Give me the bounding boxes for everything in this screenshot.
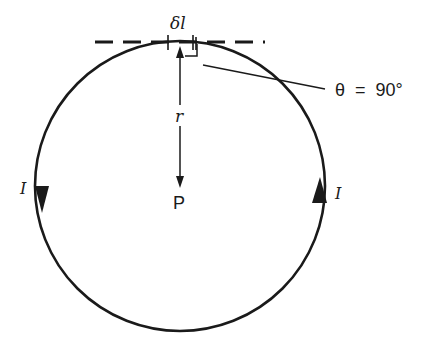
arrowhead-down-icon [176, 176, 184, 188]
point-p-label: P [173, 193, 185, 213]
arrowhead-up-icon [176, 46, 184, 58]
radius-label: r [175, 106, 184, 126]
biot-savart-circular-loop-diagram: δl r P I I θ = 90° [0, 0, 434, 347]
diagram-svg: δl r P I I θ = 90° [0, 0, 434, 347]
current-right-label: I [334, 184, 342, 203]
radius-arrow-down [176, 126, 184, 188]
radius-arrow-up [176, 46, 184, 105]
current-left-label: I [19, 179, 27, 198]
element-label: δl [170, 13, 186, 33]
angle-label: θ = 90° [335, 80, 403, 100]
